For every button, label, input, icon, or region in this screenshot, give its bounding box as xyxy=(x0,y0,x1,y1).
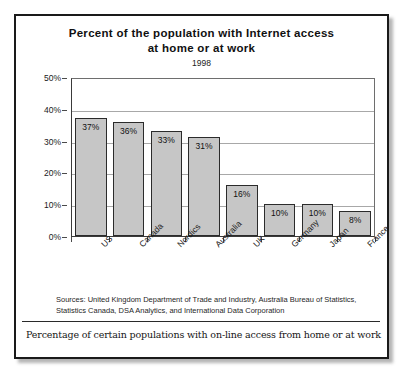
bars-layer: 37%36%33%31%16%10%10%8% xyxy=(72,79,374,236)
x-category-label-australia: Australia xyxy=(213,242,220,249)
bar-germany[interactable]: 10% xyxy=(264,204,296,236)
chart-subtitle-year: 1998 xyxy=(16,58,387,69)
y-tick-mark xyxy=(62,142,67,143)
caption-separator xyxy=(22,321,380,322)
bar-slot: 16% xyxy=(223,79,261,236)
caption-text: Percentage of certain populations with o… xyxy=(26,329,378,340)
x-category-label-us: US xyxy=(99,242,106,249)
y-tick-mark xyxy=(62,110,67,111)
caption-block: Percentage of certain populations with o… xyxy=(26,329,378,340)
y-tick-label: 40% xyxy=(44,105,61,115)
y-tick-mark xyxy=(62,78,67,79)
bar-value-label: 33% xyxy=(158,135,175,145)
plot-region: 0%10%20%30%40%50% 37%36%33%31%16%10%10%8… xyxy=(71,78,375,278)
bar-australia[interactable]: 31% xyxy=(188,137,220,236)
bar-us[interactable]: 37% xyxy=(75,118,107,236)
x-category-label-japan: Japan xyxy=(327,242,334,249)
bar-value-label: 31% xyxy=(196,141,213,151)
bar-value-label: 10% xyxy=(271,208,288,218)
y-tick-label: 50% xyxy=(44,73,61,83)
bar-value-label: 37% xyxy=(82,122,99,132)
bar-nordics[interactable]: 33% xyxy=(151,131,183,236)
bar-value-label: 36% xyxy=(120,126,137,136)
chart-title-line1: Percent of the population with Internet … xyxy=(16,26,387,41)
source-line-1: Sources: United Kingdom Department of Tr… xyxy=(56,294,356,305)
bar-slot: 10% xyxy=(299,79,337,236)
y-tick-mark xyxy=(62,173,67,174)
bar-value-label: 8% xyxy=(349,215,361,225)
x-category-label-france: France xyxy=(365,242,372,249)
bar-slot: 33% xyxy=(148,79,186,236)
bar-slot: 36% xyxy=(110,79,148,236)
y-tick-label: 0% xyxy=(49,232,61,242)
bar-value-label: 16% xyxy=(233,189,250,199)
bar-value-label: 10% xyxy=(309,208,326,218)
bar-canada[interactable]: 36% xyxy=(113,122,145,236)
x-category-label-canada: Canada xyxy=(137,242,144,249)
x-axis-labels: USCanadaNordicsAustraliaUKGermanyJapanFr… xyxy=(71,242,375,288)
bar-slot: 10% xyxy=(261,79,299,236)
y-tick-mark xyxy=(62,237,67,238)
bar-slot: 37% xyxy=(72,79,110,236)
bar-slot: 8% xyxy=(336,79,374,236)
sources-block: Sources: United Kingdom Department of Tr… xyxy=(56,294,356,316)
y-tick-mark xyxy=(62,205,67,206)
title-block: Percent of the population with Internet … xyxy=(16,26,387,69)
x-category-label-nordics: Nordics xyxy=(175,242,182,249)
y-tick-label: 30% xyxy=(44,137,61,147)
y-axis: 0%10%20%30%40%50% xyxy=(33,78,67,237)
x-category-label-uk: UK xyxy=(251,242,258,249)
y-tick-label: 20% xyxy=(44,168,61,178)
bar-slot: 31% xyxy=(185,79,223,236)
source-line-2: Statistics Canada, DSA Analytics, and In… xyxy=(56,305,356,316)
y-tick-label: 10% xyxy=(44,200,61,210)
plot-area: 37%36%33%31%16%10%10%8% xyxy=(71,78,375,237)
chart-title-line2: at home or at work xyxy=(16,41,387,56)
figure-frame: Percent of the population with Internet … xyxy=(14,14,389,359)
x-category-label-germany: Germany xyxy=(289,242,296,249)
